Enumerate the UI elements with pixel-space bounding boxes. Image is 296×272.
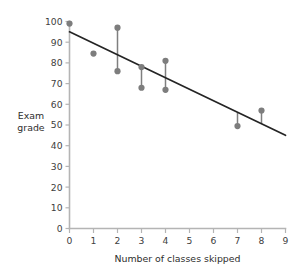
x-tick-label: 5 [187, 235, 193, 246]
data-point [114, 68, 120, 74]
y-axis-title: Exam grade [4, 110, 58, 133]
data-point [162, 87, 168, 93]
y-tick-label: 40 [51, 140, 63, 151]
data-point [90, 50, 96, 56]
y-tick-label: 60 [51, 99, 63, 110]
y-tick-label: 30 [51, 161, 63, 172]
regression-line-path [70, 32, 286, 136]
y-tick-label: 0 [57, 223, 63, 234]
x-tick-label: 6 [211, 235, 217, 246]
y-tick-label: 90 [51, 37, 63, 48]
y-axis-title-line2: grade [4, 122, 58, 134]
data-point [234, 123, 240, 129]
regression-line [70, 32, 286, 136]
y-tick-label: 80 [51, 57, 63, 68]
data-point [66, 20, 72, 26]
y-axis-title-line1: Exam [4, 110, 58, 122]
data-point [138, 85, 144, 91]
y-tick-label: 70 [51, 78, 63, 89]
x-tick-label: 9 [283, 235, 289, 246]
x-tick-label: 1 [91, 235, 97, 246]
x-tick-label: 8 [259, 235, 265, 246]
x-tick-label: 0 [67, 235, 73, 246]
y-tick-label: 20 [51, 182, 63, 193]
x-tick-label: 3 [139, 235, 145, 246]
data-point [138, 64, 144, 70]
x-tick-label: 4 [163, 235, 169, 246]
y-tick-label: 100 [45, 16, 63, 27]
data-point [258, 107, 264, 113]
data-point [162, 58, 168, 64]
data-point [114, 25, 120, 31]
residual-segments [118, 28, 262, 126]
x-tick-label: 7 [235, 235, 241, 246]
scatter-plot-with-regression-line: 0102030405060708090100 0123456789 Number… [0, 0, 296, 272]
x-axis-title: Number of classes skipped [114, 253, 240, 264]
x-axis: 0123456789 [67, 229, 289, 247]
chart-container: 0102030405060708090100 0123456789 Number… [0, 0, 296, 272]
x-tick-label: 2 [115, 235, 121, 246]
x-axis-title-text: Number of classes skipped [114, 253, 240, 264]
y-tick-label: 10 [51, 202, 63, 213]
